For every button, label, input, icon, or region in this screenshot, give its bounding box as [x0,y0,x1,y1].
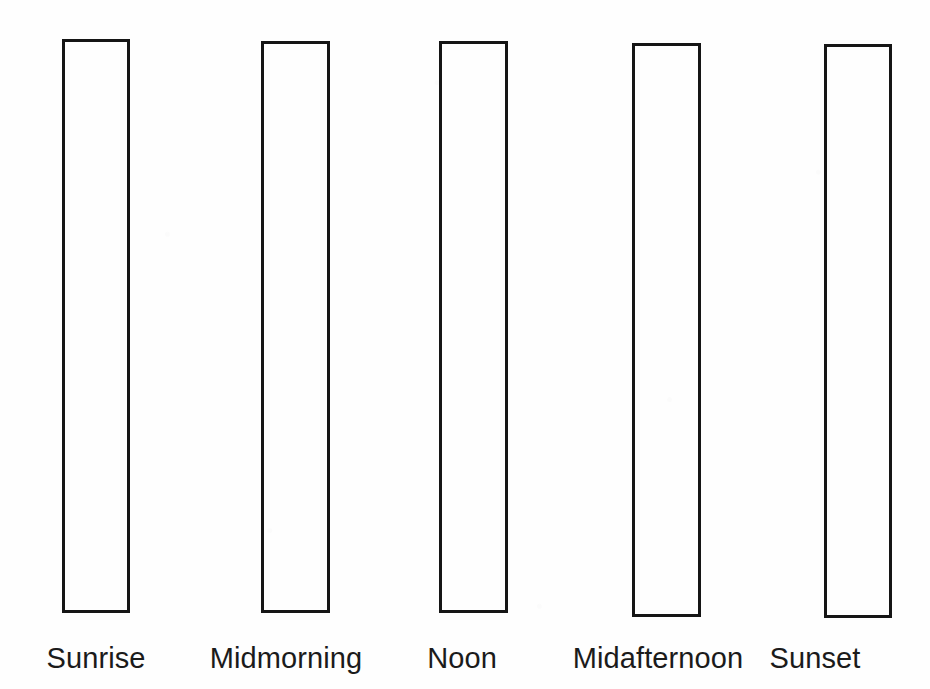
bar-label-sunrise: Sunrise [46,644,145,673]
bar-midmorning[interactable] [261,41,330,613]
bar-label-midafternoon: Midafternoon [573,644,743,673]
bar-sunrise[interactable] [62,39,130,613]
bar-noon[interactable] [439,41,508,613]
bar-label-midmorning: Midmorning [210,644,363,673]
bar-chart: Sunrise Midmorning Noon Midafternoon Sun… [0,0,930,689]
bar-label-noon: Noon [427,644,497,673]
bar-label-sunset: Sunset [770,644,861,673]
bar-midafternoon[interactable] [632,43,701,617]
bar-sunset[interactable] [824,44,892,618]
